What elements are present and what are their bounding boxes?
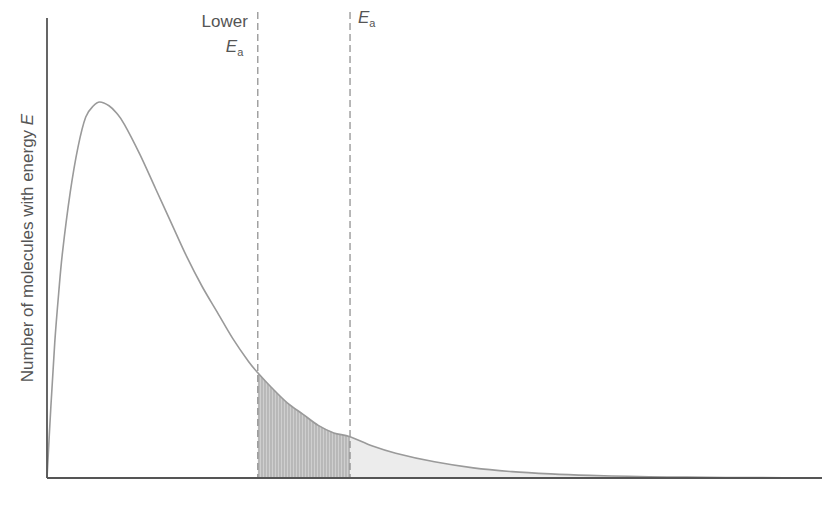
energy-distribution-chart: Number of molecules with energy E LowerE… (0, 0, 828, 507)
ea-label-symbol: Ea (358, 8, 376, 29)
shaded-regions (258, 373, 811, 478)
y-axis-label: Number of molecules with energy E (18, 113, 37, 382)
shaded-region-ea (350, 437, 810, 478)
lower-ea-label-symbol: Ea (226, 37, 244, 58)
series-curve (47, 102, 810, 478)
lower-ea-label-text: Lower (201, 12, 248, 31)
